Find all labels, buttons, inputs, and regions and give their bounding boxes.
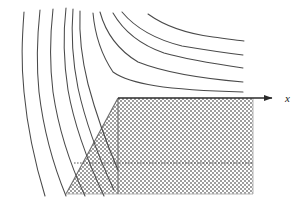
flow-streamline-diagram: x [0, 0, 303, 202]
wedge-body-region [66, 98, 253, 194]
streamline-8 [100, 12, 243, 82]
streamline-9 [113, 13, 243, 68]
streamline-11 [148, 14, 244, 41]
x-axis-label: x [284, 92, 290, 104]
figure-container: x [0, 0, 303, 202]
streamline-1 [22, 12, 45, 196]
streamline-10 [122, 12, 243, 55]
streamline-2 [37, 10, 66, 196]
